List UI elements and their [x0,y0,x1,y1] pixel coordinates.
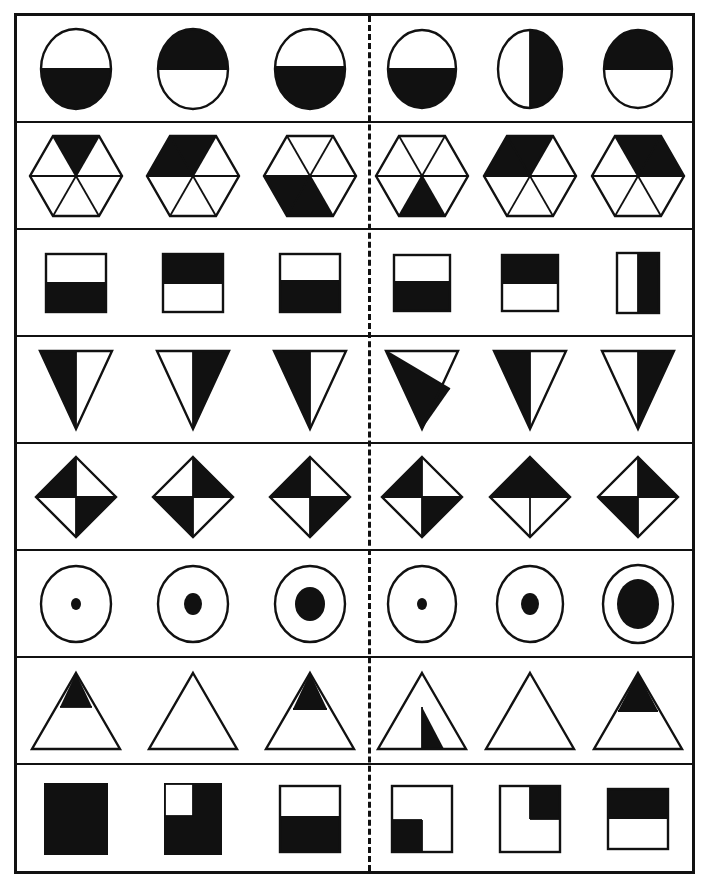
worksheet-row-4 [17,337,692,444]
row-2-right-item-1[interactable] [368,123,476,228]
row-2-left-group [17,123,368,228]
worksheet-frame [14,13,695,874]
row-8-right-item-2[interactable] [476,765,584,872]
row-7-right-group [368,658,692,763]
worksheet-row-3 [17,230,692,337]
row-4-right-group [368,337,692,442]
row-6-left-item-3[interactable] [251,551,368,656]
row-8-right-item-1[interactable] [368,765,476,872]
row-1-right-item-1[interactable] [368,16,476,121]
row-1-left-item-1[interactable] [17,16,134,121]
row-2-right-group [368,123,692,228]
row-4-left-group [17,337,368,442]
row-1-right-item-2[interactable] [476,16,584,121]
row-3-right-item-2[interactable] [476,230,584,335]
row-2-left-item-2[interactable] [134,123,251,228]
row-8-left-item-1[interactable] [17,765,134,872]
row-7-right-item-2[interactable] [476,658,584,763]
row-6-right-group [368,551,692,656]
row-6-right-item-1[interactable] [368,551,476,656]
row-2-right-item-3[interactable] [584,123,692,228]
row-2-left-item-1[interactable] [17,123,134,228]
row-7-left-item-1[interactable] [17,658,134,763]
row-5-right-group [368,444,692,549]
row-4-right-item-2[interactable] [476,337,584,442]
row-4-left-item-2[interactable] [134,337,251,442]
row-5-left-item-2[interactable] [134,444,251,549]
row-5-left-group [17,444,368,549]
row-7-right-item-1[interactable] [368,658,476,763]
row-3-right-item-3[interactable] [584,230,692,335]
row-4-left-item-1[interactable] [17,337,134,442]
worksheet-page [0,0,710,887]
row-4-left-item-3[interactable] [251,337,368,442]
row-5-left-item-1[interactable] [17,444,134,549]
worksheet-row-6 [17,551,692,658]
row-8-right-item-3[interactable] [584,765,692,872]
row-5-right-item-1[interactable] [368,444,476,549]
row-7-left-item-2[interactable] [134,658,251,763]
row-3-left-item-2[interactable] [134,230,251,335]
row-5-right-item-2[interactable] [476,444,584,549]
row-4-right-item-3[interactable] [584,337,692,442]
row-7-left-group [17,658,368,763]
row-2-left-item-3[interactable] [251,123,368,228]
row-1-left-item-2[interactable] [134,16,251,121]
row-3-right-item-1[interactable] [368,230,476,335]
row-3-left-group [17,230,368,335]
worksheet-row-5 [17,444,692,551]
worksheet-row-1 [17,16,692,123]
row-1-left-item-3[interactable] [251,16,368,121]
row-8-left-item-3[interactable] [251,765,368,872]
row-6-left-item-1[interactable] [17,551,134,656]
row-3-left-item-1[interactable] [17,230,134,335]
worksheet-row-8 [17,765,692,872]
worksheet-row-7 [17,658,692,765]
row-4-right-item-1[interactable] [368,337,476,442]
row-8-right-group [368,765,692,872]
row-5-left-item-3[interactable] [251,444,368,549]
center-dashed-divider [368,16,371,871]
row-5-right-item-3[interactable] [584,444,692,549]
row-8-left-group [17,765,368,872]
row-7-left-item-3[interactable] [251,658,368,763]
row-6-left-item-2[interactable] [134,551,251,656]
worksheet-row-2 [17,123,692,230]
row-6-left-group [17,551,368,656]
row-7-right-item-3[interactable] [584,658,692,763]
row-3-right-group [368,230,692,335]
row-6-right-item-2[interactable] [476,551,584,656]
row-3-left-item-3[interactable] [251,230,368,335]
row-1-left-group [17,16,368,121]
row-1-right-item-3[interactable] [584,16,692,121]
row-2-right-item-2[interactable] [476,123,584,228]
row-6-right-item-3[interactable] [584,551,692,656]
row-1-right-group [368,16,692,121]
row-8-left-item-2[interactable] [134,765,251,872]
